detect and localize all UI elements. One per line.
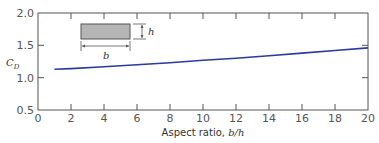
width-label: b [103, 50, 109, 61]
x-tick-label: 2 [68, 112, 75, 125]
y-tick-labels: 0.51.01.52.0 [17, 7, 35, 117]
chart: 02468101214161820 0.51.01.52.0 CD Aspect… [0, 0, 379, 143]
x-tick-label: 6 [134, 112, 141, 125]
x-tick-label: 18 [328, 112, 342, 125]
x-tick-labels: 02468101214161820 [35, 112, 376, 125]
x-tick-label: 14 [262, 112, 276, 125]
y-tick-label: 1.5 [17, 39, 35, 52]
x-tick-label: 16 [295, 112, 309, 125]
x-tick-label: 12 [229, 112, 243, 125]
x-tick-label: 4 [101, 112, 108, 125]
x-tick-label: 10 [196, 112, 210, 125]
cd-curve [55, 48, 369, 69]
y-axis-label: CD [6, 57, 20, 71]
y-tick-label: 2.0 [17, 7, 35, 20]
inset-rectangle-diagram: h b [81, 24, 154, 61]
x-tick-label: 20 [361, 112, 375, 125]
x-tick-label: 0 [35, 112, 42, 125]
y-ticks [38, 45, 368, 77]
y-tick-label: 1.0 [17, 72, 35, 85]
y-tick-label: 0.5 [17, 104, 35, 117]
height-label: h [148, 26, 154, 37]
cross-section-rect [81, 24, 130, 39]
x-axis-label: Aspect ratio, b/h [162, 127, 245, 138]
x-tick-label: 8 [167, 112, 174, 125]
